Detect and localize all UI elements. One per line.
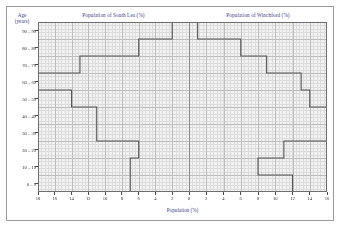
x-tick-label: 10	[273, 196, 278, 201]
x-tick-label: 8	[257, 196, 259, 201]
x-tick-mark	[223, 192, 224, 195]
x-tick-label: 6	[138, 196, 140, 201]
x-tick-label: 10	[103, 196, 108, 201]
x-tick-label: 12	[86, 196, 91, 201]
x-tick-mark	[327, 192, 328, 195]
x-tick-mark	[258, 192, 259, 195]
x-tick-label: 8	[121, 196, 123, 201]
x-tick-mark	[105, 192, 106, 195]
x-tick-label: 2	[205, 196, 207, 201]
x-tick-mark	[172, 192, 173, 195]
x-tick-label: 16	[325, 196, 330, 201]
x-tick-mark	[240, 192, 241, 195]
x-tick-label: 2	[171, 196, 173, 201]
x-tick-mark	[138, 192, 139, 195]
x-tick-label: 6	[240, 196, 242, 201]
x-tick-mark	[155, 192, 156, 195]
x-tick-mark	[292, 192, 293, 195]
x-tick-mark	[38, 192, 39, 195]
x-tick-mark	[275, 192, 276, 195]
x-tick-label: 4	[222, 196, 224, 201]
x-tick-label: 12	[290, 196, 295, 201]
x-tick-label: 4	[154, 196, 156, 201]
x-tick-mark	[88, 192, 89, 195]
x-tick-label: 14	[69, 196, 74, 201]
x-tick-label: 0	[188, 196, 190, 201]
population-pyramid-figure: Population of South Lea (%) Population o…	[0, 0, 341, 228]
x-tick-mark	[121, 192, 122, 195]
x-tick-label: 14	[307, 196, 312, 201]
x-tick-mark	[206, 192, 207, 195]
x-tick-label: 18	[36, 196, 41, 201]
x-tick-mark	[71, 192, 72, 195]
x-tick-mark	[309, 192, 310, 195]
x-tick-mark	[54, 192, 55, 195]
x-tick-mark	[189, 192, 190, 195]
x-tick-label: 16	[52, 196, 57, 201]
x-tick-labels: 181614121086420246810121416	[0, 0, 341, 228]
